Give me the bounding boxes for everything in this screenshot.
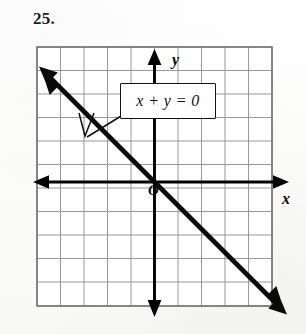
- coordinate-plane-graph: x + y = 0 y x O: [31, 41, 293, 327]
- worksheet-page: 25.: [0, 0, 306, 334]
- x-axis-label: x: [282, 191, 290, 207]
- equation-label: x + y = 0: [136, 92, 199, 110]
- arrow-right-icon: [273, 175, 289, 189]
- exercise-number: 25.: [33, 10, 55, 27]
- arrow-down-icon: [148, 300, 162, 317]
- y-axis-label: y: [172, 52, 179, 68]
- origin-label: O: [148, 183, 159, 198]
- equation-callout-box: x + y = 0: [120, 83, 216, 119]
